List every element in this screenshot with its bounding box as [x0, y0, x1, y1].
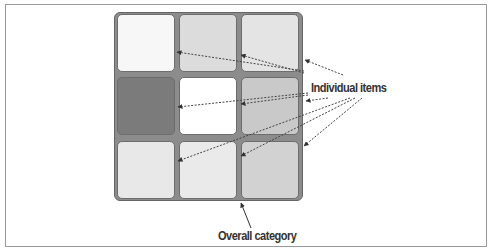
arrow-to-grid-edge-mid [306, 98, 328, 101]
individual-items-label: Individual items [311, 80, 386, 95]
arrow-to-grid-edge-top [305, 60, 343, 75]
arrow-overall-category [241, 203, 251, 228]
overall-category-label: Overall category [218, 228, 296, 243]
arrow-to-r3c3 [241, 98, 355, 156]
arrow-to-r1c3 [241, 55, 304, 73]
arrow-to-r1c2 [177, 52, 304, 71]
arrows-layer [0, 0, 493, 251]
arrow-to-grid-edge-bottom [304, 98, 362, 146]
arrow-to-r2c2 [178, 93, 308, 107]
